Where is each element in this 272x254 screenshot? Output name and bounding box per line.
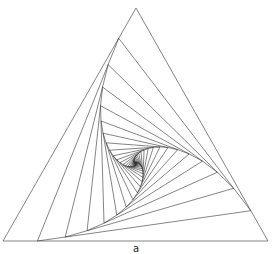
figure-caption: a <box>0 244 272 254</box>
triangle-1 <box>37 38 250 241</box>
triangle-2 <box>65 65 233 237</box>
nested-triangles <box>3 8 268 241</box>
